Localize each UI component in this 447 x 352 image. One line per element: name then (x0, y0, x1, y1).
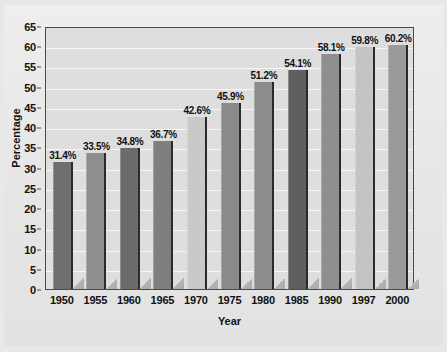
bar-value-label: 58.1% (318, 42, 345, 53)
x-tick-label: 1955 (83, 294, 107, 306)
x-axis: 1950195519601965197019751980198519901997… (45, 294, 414, 310)
x-tick-label: 1975 (218, 294, 242, 306)
bar-value-label: 51.2% (251, 70, 278, 81)
bar-value-label: 59.8% (351, 35, 378, 46)
x-axis-title: Year (45, 315, 414, 327)
y-tick-label: 20 (24, 203, 36, 215)
y-tick-mark (37, 188, 41, 189)
y-tick-mark (37, 229, 41, 230)
y-tick-label: 25 (24, 183, 36, 195)
x-tick-label: 1960 (117, 294, 141, 306)
y-axis-title: Percentage (10, 78, 22, 198)
bar-value-label: 33.5% (83, 141, 110, 152)
x-tick-label: 1990 (318, 294, 342, 306)
bar-value-label: 54.1% (284, 58, 311, 69)
bar-value-label: 36.7% (150, 129, 177, 140)
y-tick-label: 35 (24, 142, 36, 154)
bar-value-label: 45.9% (217, 91, 244, 102)
x-tick-label: 1980 (251, 294, 275, 306)
y-tick-mark (37, 87, 41, 88)
y-tick-mark (37, 67, 41, 68)
data-labels-group: 31.4%33.5%34.8%36.7%42.6%45.9%51.2%54.1%… (46, 28, 413, 289)
y-tick-label: 50 (24, 82, 36, 94)
y-tick-mark (37, 47, 41, 48)
y-tick-mark (37, 269, 41, 270)
y-tick-mark (37, 249, 41, 250)
x-tick-label: 1997 (352, 294, 376, 306)
y-tick-mark (37, 107, 41, 108)
y-tick-mark (37, 290, 41, 291)
x-tick-label: 1965 (151, 294, 175, 306)
y-tick-label: 60 (24, 41, 36, 53)
x-tick-label: 2000 (385, 294, 409, 306)
bar-value-label: 34.8% (116, 136, 143, 147)
y-tick-mark (37, 27, 41, 28)
y-tick-label: 15 (24, 223, 36, 235)
x-tick-label: 1950 (50, 294, 74, 306)
y-tick-mark (37, 148, 41, 149)
bar-value-label: 31.4% (49, 150, 76, 161)
y-tick-label: 5 (30, 264, 36, 276)
x-tick-label: 1985 (285, 294, 309, 306)
bar-value-label: 60.2% (385, 33, 412, 44)
y-tick-label: 30 (24, 163, 36, 175)
x-tick-label: 1970 (184, 294, 208, 306)
y-tick-mark (37, 209, 41, 210)
y-tick-mark (37, 128, 41, 129)
y-tick-mark (37, 168, 41, 169)
bar-value-label: 42.6% (184, 105, 211, 116)
y-tick-label: 40 (24, 122, 36, 134)
plot-area: 31.4%33.5%34.8%36.7%42.6%45.9%51.2%54.1%… (45, 27, 414, 290)
y-tick-label: 0 (30, 284, 36, 296)
y-tick-label: 65 (24, 21, 36, 33)
y-tick-label: 10 (24, 244, 36, 256)
y-tick-label: 45 (24, 102, 36, 114)
bar-chart-figure: 05101520253035404550556065 Percentage 31… (0, 0, 447, 352)
y-tick-label: 55 (24, 61, 36, 73)
